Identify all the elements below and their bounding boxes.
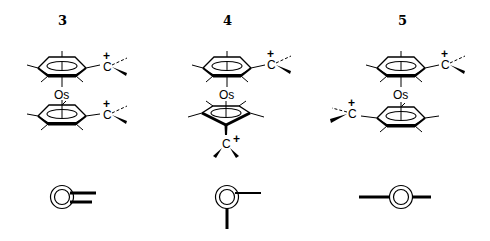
metal-os: Os	[393, 88, 408, 102]
cp-ring-top	[192, 51, 265, 82]
schematic-3	[51, 186, 97, 209]
cp-ring-top	[27, 51, 100, 82]
cp-ring-top	[366, 51, 439, 82]
schematic-5	[359, 186, 431, 209]
cp-ring-bottom	[361, 102, 439, 132]
cation-carbon: C	[222, 137, 231, 151]
compound-label-3: 3	[58, 13, 67, 28]
metal-os: Os	[219, 88, 234, 102]
compound-label-4: 4	[223, 13, 232, 28]
cp-ring-bottom	[188, 101, 264, 135]
compound-5: 5 Os C +	[330, 13, 465, 209]
compound-4: 4 Os C +	[188, 13, 291, 229]
compound-3: 3 Os	[27, 13, 127, 209]
metal-os: Os	[54, 88, 69, 102]
schematic-4	[216, 186, 262, 230]
cp-ring-bottom	[27, 100, 100, 130]
figure: C + 3 Os	[0, 0, 490, 241]
cation-charge: +	[233, 132, 240, 146]
svg-text:+: +	[348, 96, 355, 110]
compound-label-5: 5	[398, 13, 407, 28]
